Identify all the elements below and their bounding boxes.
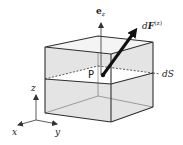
- surface-element-label: dS: [162, 69, 174, 79]
- figure: ez dF(z) dS P z x y: [0, 0, 183, 145]
- force-vector-label: dF(z): [142, 19, 162, 31]
- normal-vector-label: ez: [96, 6, 106, 17]
- lower-front-face: [45, 79, 111, 122]
- point-P-dot: [101, 73, 105, 77]
- point-P-label: P: [88, 69, 94, 80]
- axis-x: [18, 120, 36, 125]
- axis-z-label: z: [30, 83, 36, 93]
- axis-y-label: y: [54, 127, 61, 137]
- axis-y: [36, 120, 57, 124]
- axis-x-label: x: [12, 127, 17, 137]
